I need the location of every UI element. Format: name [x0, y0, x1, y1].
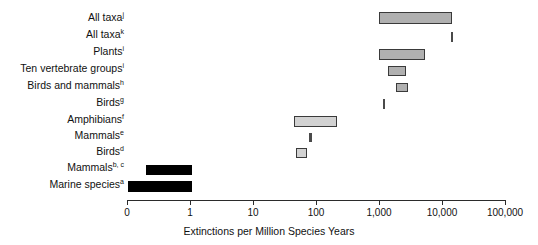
data-bar [128, 181, 192, 192]
x-axis-tick-label: 100,000 [487, 207, 523, 219]
extinction-rate-chart: All taxajAll taxakPlantsiTen vertebrate … [0, 0, 538, 245]
x-axis: Extinctions per Million Species Years 01… [0, 196, 538, 245]
data-bar [383, 99, 385, 109]
x-axis-tick [505, 200, 506, 205]
data-bar [451, 32, 453, 42]
x-axis-tick [316, 200, 317, 205]
x-axis-tick [379, 200, 380, 205]
x-axis-tick-label: 10 [247, 207, 258, 219]
data-bar [379, 49, 425, 60]
x-axis-tick-label: 100 [308, 207, 325, 219]
data-bar [146, 165, 192, 175]
data-bar [309, 133, 312, 142]
x-axis-tick-label: 1,000 [366, 207, 391, 219]
x-axis-tick-label: 10,000 [427, 207, 458, 219]
data-bar [388, 66, 406, 76]
x-axis-tick [442, 200, 443, 205]
x-axis-tick [253, 200, 254, 205]
x-axis-tick-label: 1 [187, 207, 193, 219]
data-bar [294, 116, 337, 127]
x-axis-title: Extinctions per Million Species Years [0, 225, 538, 237]
x-axis-tick-label: 0 [124, 207, 130, 219]
plot-area [0, 0, 538, 195]
data-bar [296, 148, 307, 158]
x-axis-tick [127, 200, 128, 205]
data-bar [396, 83, 408, 92]
x-axis-tick [190, 200, 191, 205]
data-bar [379, 12, 452, 24]
